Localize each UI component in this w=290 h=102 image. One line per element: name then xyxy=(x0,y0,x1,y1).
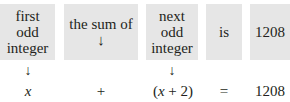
equation-result: 1208 xyxy=(250,82,290,100)
box-line: 1208 xyxy=(255,24,285,40)
box-the-sum-of: the sum of ↓ xyxy=(64,4,138,60)
box-line: next xyxy=(159,8,185,24)
box-1208: 1208 xyxy=(250,4,290,60)
equation-equals: = xyxy=(216,82,232,100)
down-arrow-icon: ↓ xyxy=(97,32,105,48)
box-next-odd-integer: next odd integer xyxy=(146,4,198,60)
box-first-odd-integer: first odd integer xyxy=(0,4,55,60)
equation-term-x: x xyxy=(20,82,36,100)
box-line: integer xyxy=(151,40,193,56)
down-arrow-icon: ↓ xyxy=(20,64,36,78)
equation-term-x-plus-2: (x + 2) xyxy=(143,82,203,100)
equation-plus: + xyxy=(93,82,109,100)
box-line: the sum of xyxy=(69,16,132,32)
box-line: odd xyxy=(16,24,39,40)
down-arrow-icon: ↓ xyxy=(164,64,180,78)
plus-two: + 2) xyxy=(165,83,193,99)
box-line: integer xyxy=(7,40,49,56)
box-is: is xyxy=(206,4,242,60)
box-line: is xyxy=(219,24,229,40)
var-x: x xyxy=(158,83,165,99)
box-line: first xyxy=(15,8,39,24)
box-line: odd xyxy=(161,24,184,40)
